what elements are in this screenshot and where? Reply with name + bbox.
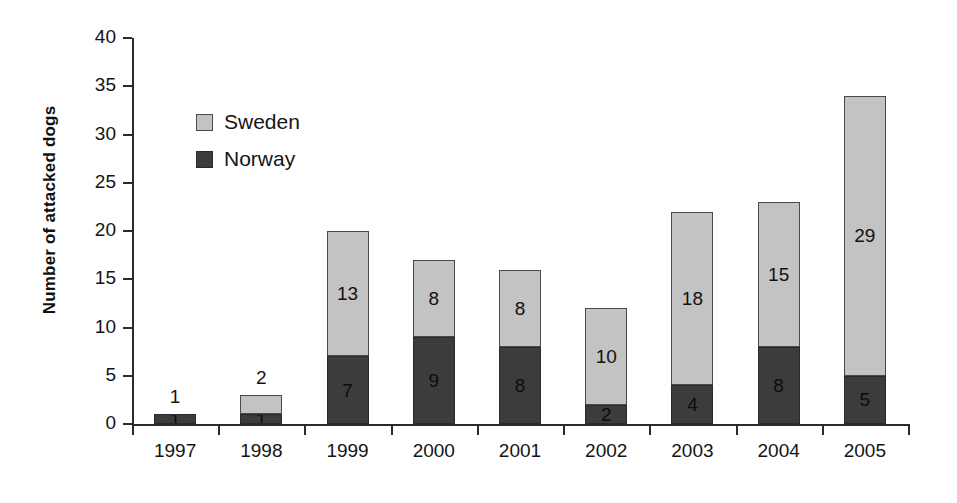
x-tick-label: 2000	[389, 440, 479, 462]
x-axis-tick-mark	[822, 426, 824, 435]
bar-segment-sweden[interactable]: 18	[671, 212, 713, 386]
y-tick-label: 25	[72, 171, 116, 193]
x-tick-label: 1997	[130, 440, 220, 462]
bar-total-label: 2	[216, 367, 306, 389]
legend-item-sweden: Sweden	[196, 110, 300, 134]
x-tick-label: 1998	[216, 440, 306, 462]
bar-segment-norway[interactable]: 1	[154, 414, 196, 424]
y-tick-label: 35	[72, 74, 116, 96]
x-axis-tick-mark	[391, 426, 393, 435]
bar-value-label: 4	[687, 395, 698, 414]
bar-segment-norway[interactable]: 9	[413, 337, 455, 424]
bar-value-label: 9	[428, 371, 439, 390]
bar-segment-norway[interactable]: 4	[671, 385, 713, 424]
x-tick-label: 2003	[647, 440, 737, 462]
y-tick-label: 0	[72, 412, 116, 434]
y-tick-mark	[123, 327, 132, 329]
bar-group[interactable]: 11	[154, 414, 196, 424]
legend-label-sweden: Sweden	[224, 110, 300, 134]
x-axis-tick-mark	[649, 426, 651, 435]
x-tick-label: 2005	[820, 440, 910, 462]
bar-group[interactable]: 102	[585, 308, 627, 424]
bar-segment-norway[interactable]: 5	[844, 376, 886, 424]
bar-segment-sweden[interactable]: 13	[327, 231, 369, 356]
legend-label-norway: Norway	[224, 147, 295, 171]
x-axis-tick-mark	[304, 426, 306, 435]
y-tick-label: 15	[72, 267, 116, 289]
y-tick-label: 30	[72, 123, 116, 145]
legend-swatch-norway-icon	[196, 151, 213, 168]
bar-value-label: 10	[596, 347, 617, 366]
y-tick-label: 10	[72, 316, 116, 338]
bar-value-label: 1	[256, 414, 267, 424]
y-tick-mark	[123, 375, 132, 377]
bar-group[interactable]: 158	[758, 202, 800, 424]
y-tick-mark	[123, 37, 132, 39]
x-axis-tick-mark	[477, 426, 479, 435]
y-tick-mark	[123, 134, 132, 136]
bar-segment-norway[interactable]: 8	[499, 347, 541, 424]
y-tick-label: 40	[72, 26, 116, 48]
x-axis-tick-mark	[908, 426, 910, 435]
stacked-bar-chart: Number of attacked dogs 0510152025303540…	[0, 0, 957, 503]
bar-value-label: 18	[682, 289, 703, 308]
x-tick-label: 2004	[734, 440, 824, 462]
y-tick-mark	[123, 230, 132, 232]
plot-area: 051015202530354011121378988102184158295	[132, 38, 908, 424]
y-tick-mark	[123, 85, 132, 87]
bar-segment-norway[interactable]: 1	[240, 414, 282, 424]
bar-segment-sweden[interactable]: 10	[585, 308, 627, 405]
bar-group[interactable]: 88	[499, 270, 541, 424]
x-tick-label: 2002	[561, 440, 651, 462]
chart-legend: Sweden Norway	[196, 110, 300, 184]
x-axis-line	[132, 424, 910, 426]
bar-segment-norway[interactable]: 7	[327, 356, 369, 424]
bar-value-label: 1	[170, 414, 181, 424]
bar-segment-sweden[interactable]: 15	[758, 202, 800, 347]
bar-total-label: 1	[130, 386, 220, 408]
x-axis-tick-mark	[132, 426, 134, 435]
bar-value-label: 8	[428, 289, 439, 308]
bar-value-label: 8	[515, 376, 526, 395]
bar-value-label: 5	[860, 390, 871, 409]
bar-value-label: 13	[337, 284, 358, 303]
bar-value-label: 29	[854, 226, 875, 245]
x-axis-tick-mark	[736, 426, 738, 435]
bar-value-label: 8	[773, 376, 784, 395]
bar-group[interactable]: 12	[240, 395, 282, 424]
x-tick-label: 2001	[475, 440, 565, 462]
bar-group[interactable]: 89	[413, 260, 455, 424]
y-axis-title: Number of attacked dogs	[40, 10, 60, 410]
y-tick-mark	[123, 182, 132, 184]
bar-group[interactable]: 137	[327, 231, 369, 424]
bar-group[interactable]: 184	[671, 212, 713, 424]
y-tick-label: 5	[72, 364, 116, 386]
x-axis-tick-mark	[218, 426, 220, 435]
x-tick-label: 1999	[303, 440, 393, 462]
bar-segment-sweden[interactable]	[240, 395, 282, 414]
bar-segment-sweden[interactable]: 8	[499, 270, 541, 347]
bar-segment-sweden[interactable]: 29	[844, 96, 886, 376]
bar-segment-norway[interactable]: 2	[585, 405, 627, 424]
bar-value-label: 15	[768, 265, 789, 284]
bar-value-label: 7	[342, 381, 353, 400]
bar-value-label: 8	[515, 299, 526, 318]
x-axis-tick-mark	[563, 426, 565, 435]
legend-item-norway: Norway	[196, 147, 300, 171]
y-tick-mark	[123, 278, 132, 280]
bar-group[interactable]: 295	[844, 96, 886, 424]
bar-segment-sweden[interactable]: 8	[413, 260, 455, 337]
y-tick-mark	[123, 423, 132, 425]
bar-segment-norway[interactable]: 8	[758, 347, 800, 424]
legend-swatch-sweden-icon	[196, 114, 213, 131]
bar-value-label: 2	[601, 405, 612, 424]
y-tick-label: 20	[72, 219, 116, 241]
